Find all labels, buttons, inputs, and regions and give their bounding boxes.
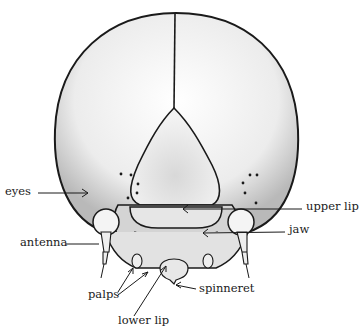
label-lower-lip: lower lip bbox=[118, 315, 169, 327]
antenna-socket-left bbox=[93, 209, 119, 235]
label-spinneret: spinneret bbox=[199, 283, 254, 295]
label-palps: palps bbox=[88, 289, 119, 301]
label-upper-lip: upper lip bbox=[306, 201, 359, 213]
upper-lip bbox=[130, 207, 222, 228]
antenna-socket-right bbox=[228, 209, 254, 235]
antenna-left bbox=[101, 232, 111, 264]
palp-left bbox=[132, 254, 142, 268]
palp-right bbox=[203, 254, 213, 268]
label-eyes: eyes bbox=[5, 186, 31, 198]
caterpillar-head-diagram: eyes antenna palps lower lip spinneret u… bbox=[0, 0, 361, 335]
lower-lip bbox=[160, 259, 188, 284]
label-antenna: antenna bbox=[20, 237, 67, 249]
label-jaw: jaw bbox=[289, 224, 309, 236]
head-seam bbox=[174, 14, 175, 108]
head-illustration bbox=[0, 0, 361, 335]
